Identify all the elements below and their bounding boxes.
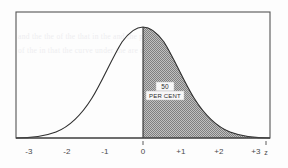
callout-value: 50 — [161, 83, 169, 90]
shaded-area-50-percent — [143, 20, 270, 138]
tick-label-neg-1: -1 — [101, 147, 109, 156]
tick-label-pos-3: +3 — [251, 147, 261, 156]
tick-label-neg-3: -3 — [25, 147, 33, 156]
distribution-plot: -3 -2 -1 0 +1 +2 +3 z 50 PER CENT — [0, 0, 288, 168]
tick-label-neg-2: -2 — [63, 147, 71, 156]
tick-label-pos-2: +2 — [214, 147, 224, 156]
axis-variable-label: z — [264, 149, 268, 156]
tick-label-pos-1: +1 — [176, 147, 186, 156]
tick-label-zero: 0 — [141, 147, 146, 156]
callout-unit: PER CENT — [149, 93, 181, 99]
normal-distribution-figure: and the the of the that in the and the p… — [0, 0, 288, 168]
